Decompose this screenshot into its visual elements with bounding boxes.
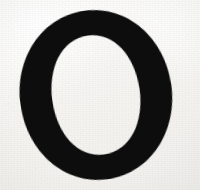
- letter-o-outline: [9, 0, 183, 189]
- letter-o-glyph: A large black serif capital letter O on …: [0, 0, 200, 190]
- scanned-letter-image: A large black serif capital letter O on …: [0, 0, 200, 190]
- letter-glyph-layer: A large black serif capital letter O on …: [0, 0, 200, 190]
